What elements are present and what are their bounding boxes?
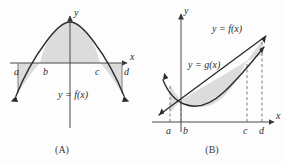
figure-container: x y a b c d y = f(x) (A) <box>0 0 284 164</box>
tick-label-b-panel-b: b <box>183 125 188 136</box>
curve-label-f-panel-a: y = f(x) <box>57 89 89 101</box>
two-panel-integral-figure: x y a b c d y = f(x) (A) <box>0 0 284 164</box>
tick-label-d-panel-a: d <box>124 66 130 77</box>
tick-label-b-panel-a: b <box>43 66 48 77</box>
curve-arrow-right-panel-a <box>120 95 129 104</box>
x-axis-label-panel-b: x <box>275 110 281 121</box>
tick-label-c-panel-b: c <box>243 125 248 136</box>
curve-label-g-panel-b: y = g(x) <box>187 59 221 71</box>
x-axis-label-panel-a: x <box>129 51 135 62</box>
panel-b: x y a b c d y = f(x) y = g(x) (B) <box>152 5 281 156</box>
panel-a: x y a b c d y = f(x) (A) <box>10 7 135 156</box>
caption-panel-b: (B) <box>205 144 218 156</box>
tick-label-a-panel-a: a <box>14 66 19 77</box>
y-axis-label-panel-a: y <box>73 7 79 18</box>
caption-panel-a: (A) <box>55 144 69 156</box>
curve-label-f-panel-b: y = f(x) <box>211 23 243 35</box>
tick-label-c-panel-a: c <box>95 66 100 77</box>
curve-arrow-left-panel-a <box>11 95 20 104</box>
y-axis-label-panel-b: y <box>183 5 189 16</box>
tick-label-a-panel-b: a <box>166 125 171 136</box>
tick-label-d-panel-b: d <box>259 125 265 136</box>
